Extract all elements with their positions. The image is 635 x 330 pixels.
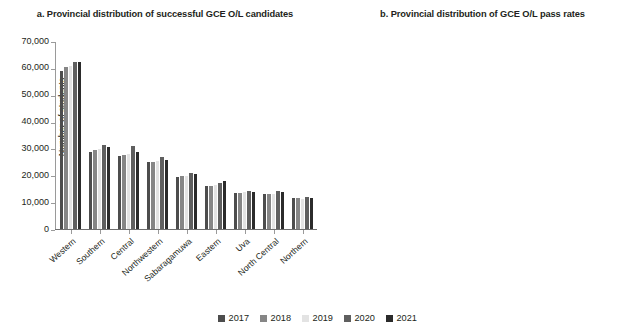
- bar-group: [288, 42, 317, 229]
- bar-group: [114, 42, 143, 229]
- bar: [160, 157, 164, 229]
- bar: [122, 155, 126, 229]
- bar: [276, 191, 280, 229]
- bar: [272, 194, 276, 229]
- legend-item: 2018: [260, 313, 291, 323]
- bar-group: [230, 42, 259, 229]
- bar: [185, 176, 189, 229]
- bar: [310, 198, 314, 229]
- y-tick-mark: [51, 149, 55, 150]
- figure-container: a. Provincial distribution of successful…: [0, 0, 635, 330]
- legend-item: 2021: [386, 313, 417, 323]
- chart-panel-a: a. Provincial distribution of successful…: [0, 0, 330, 305]
- x-tick-mark: [303, 230, 304, 234]
- bar: [176, 177, 180, 229]
- bar-group: [85, 42, 114, 229]
- bar: [78, 62, 82, 229]
- y-tick-label: 60,000: [21, 62, 49, 72]
- legend-label: 2020: [354, 313, 374, 323]
- y-tick-label: 10,000: [21, 197, 49, 207]
- legend-item: 2019: [302, 313, 333, 323]
- y-tick-mark: [51, 96, 55, 97]
- bar: [60, 71, 64, 229]
- bar: [93, 150, 97, 229]
- y-tick-label: 40,000: [21, 116, 49, 126]
- bar: [73, 62, 77, 229]
- bar: [305, 197, 309, 229]
- y-tick-label: 20,000: [21, 170, 49, 180]
- x-tick-label: Western: [47, 236, 77, 265]
- panel-b-title: b. Provincial distribution of GCE O/L pa…: [330, 8, 635, 21]
- y-tick-label: 30,000: [21, 143, 49, 153]
- x-tick-mark: [71, 230, 72, 234]
- y-tick-mark: [51, 203, 55, 204]
- x-tick-label: Southern: [74, 236, 107, 267]
- x-tick-label: Uva: [233, 236, 251, 254]
- bar: [136, 152, 140, 229]
- chart-legend: 20172018201920202021: [0, 313, 635, 323]
- bar: [205, 186, 209, 229]
- bar: [214, 185, 218, 229]
- legend-swatch: [386, 315, 393, 322]
- bar: [292, 198, 296, 229]
- panel-a-title: a. Provincial distribution of successful…: [0, 8, 330, 21]
- bar: [247, 191, 251, 229]
- bar: [301, 199, 305, 229]
- bar: [118, 156, 122, 229]
- y-tick-mark: [51, 123, 55, 124]
- bar: [209, 186, 213, 230]
- bar: [102, 145, 106, 229]
- x-tick-mark: [187, 230, 188, 234]
- y-tick-label: 50,000: [21, 89, 49, 99]
- x-tick-mark: [158, 230, 159, 234]
- y-tick-mark: [51, 230, 55, 231]
- x-tick-mark: [274, 230, 275, 234]
- bar: [252, 192, 256, 229]
- bar: [238, 193, 242, 229]
- bar: [234, 193, 238, 229]
- x-tick-mark: [100, 230, 101, 234]
- bar: [107, 147, 111, 229]
- bar: [296, 198, 300, 229]
- bar: [64, 67, 68, 229]
- x-tick-label: Central: [108, 236, 135, 262]
- bar: [263, 194, 267, 229]
- bar-group: [201, 42, 230, 229]
- x-tick-label: Northern: [278, 236, 310, 266]
- x-tick-mark: [216, 230, 217, 234]
- legend-swatch: [218, 315, 225, 322]
- bar: [89, 152, 93, 229]
- legend-item: 2017: [218, 313, 249, 323]
- x-tick-label: Eastern: [193, 236, 222, 263]
- bar: [131, 146, 135, 229]
- bar: [243, 192, 247, 229]
- panel-a-bar-groups: [56, 42, 317, 229]
- bar: [69, 66, 73, 229]
- bar: [281, 192, 285, 229]
- bar: [189, 173, 193, 229]
- x-tick-mark: [129, 230, 130, 234]
- legend-label: 2021: [396, 313, 416, 323]
- bar: [165, 160, 169, 229]
- legend-swatch: [260, 315, 267, 322]
- bar-group: [143, 42, 172, 229]
- bar: [127, 154, 131, 229]
- y-tick-mark: [51, 176, 55, 177]
- bar: [156, 161, 160, 229]
- legend-label: 2017: [229, 313, 249, 323]
- panel-a-plot-area: Number of students 010,00020,00030,00040…: [55, 42, 317, 230]
- bar: [180, 176, 184, 229]
- bar: [98, 149, 102, 229]
- bar: [147, 162, 151, 229]
- legend-label: 2018: [271, 313, 291, 323]
- x-tick-mark: [245, 230, 246, 234]
- legend-swatch: [302, 315, 309, 322]
- legend-item: 2020: [344, 313, 375, 323]
- bar: [267, 194, 271, 229]
- chart-panel-b: b. Provincial distribution of GCE O/L pa…: [330, 0, 635, 305]
- y-tick-mark: [51, 69, 55, 70]
- y-tick-mark: [51, 42, 55, 43]
- legend-swatch: [344, 315, 351, 322]
- y-tick-label: 0: [44, 224, 49, 234]
- bar-group: [56, 42, 85, 229]
